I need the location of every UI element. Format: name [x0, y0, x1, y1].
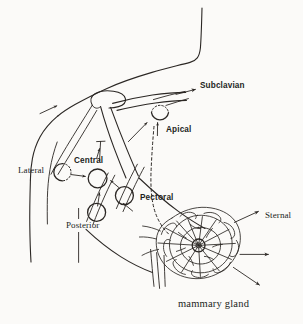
label-apical: Apical — [166, 126, 191, 134]
deep-lymphatic-pathway — [151, 126, 169, 234]
mammary-gland-lobules — [139, 207, 240, 278]
subclavian-arrow — [153, 89, 195, 105]
arm-outline — [30, 142, 57, 262]
gland-inferior-arrow — [233, 267, 259, 285]
lymphatic-drainage-diagram — [0, 0, 303, 324]
lymph-node-apical — [152, 105, 169, 120]
sternal-arrow — [234, 211, 258, 222]
label-subclavian: Subclavian — [200, 82, 245, 90]
label-lateral: Lateral — [18, 166, 44, 175]
label-sternal: Sternal — [265, 211, 291, 220]
lymph-node-lateral — [54, 164, 71, 181]
label-posterior: Posterior — [66, 221, 99, 230]
label-central: Central — [74, 157, 103, 165]
lymph-node-central — [88, 169, 107, 188]
anatomical-figure: Subclavian Apical Lateral Central Pector… — [0, 0, 303, 324]
caption-mammary-gland: mammary gland — [178, 299, 249, 310]
label-pectoral: Pectoral — [140, 194, 174, 202]
